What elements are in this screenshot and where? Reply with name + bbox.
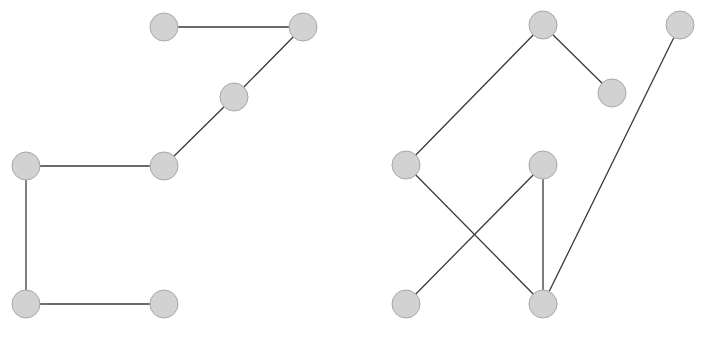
right-graph bbox=[392, 11, 694, 318]
edge-C-D bbox=[164, 97, 234, 166]
node-D bbox=[150, 152, 178, 180]
edge-H-J bbox=[543, 25, 612, 93]
node-C bbox=[220, 83, 248, 111]
node-J bbox=[598, 79, 626, 107]
graph-diagram bbox=[0, 0, 704, 341]
node-L bbox=[529, 151, 557, 179]
node-F bbox=[12, 290, 40, 318]
node-I bbox=[666, 11, 694, 39]
edge-B-C bbox=[234, 27, 303, 97]
edge-I-N bbox=[543, 25, 680, 304]
edge-H-K bbox=[406, 25, 543, 165]
left-graph bbox=[12, 13, 317, 318]
node-B bbox=[289, 13, 317, 41]
node-K bbox=[392, 151, 420, 179]
node-N bbox=[529, 290, 557, 318]
node-A bbox=[150, 13, 178, 41]
node-M bbox=[392, 290, 420, 318]
node-E bbox=[12, 152, 40, 180]
node-G bbox=[150, 290, 178, 318]
node-H bbox=[529, 11, 557, 39]
diagram-svg bbox=[0, 0, 704, 341]
